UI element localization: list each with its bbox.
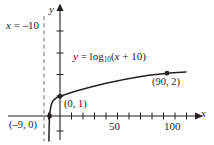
equation-label: y = log10(x + 10) [73, 51, 146, 64]
y-axis [57, 4, 64, 141]
x-tick-label-50: 50 [109, 121, 120, 132]
point-label-neg9-0: (–9, 0) [9, 120, 37, 131]
point-label-90-2: (90, 2) [152, 77, 180, 88]
x-axis-label: x [201, 108, 206, 119]
point-90-2 [165, 71, 170, 76]
point-neg9-0 [47, 114, 52, 119]
asymptote-label: x = –10 [6, 20, 39, 31]
x-tick-label-100: 100 [164, 121, 181, 132]
figure-log-graph: x = –10 y = log10(x + 10) (90, 2) (0, 1)… [0, 0, 214, 145]
y-axis-label: y [49, 4, 54, 15]
point-0-1 [58, 94, 63, 99]
point-label-0-1: (0, 1) [64, 99, 87, 110]
